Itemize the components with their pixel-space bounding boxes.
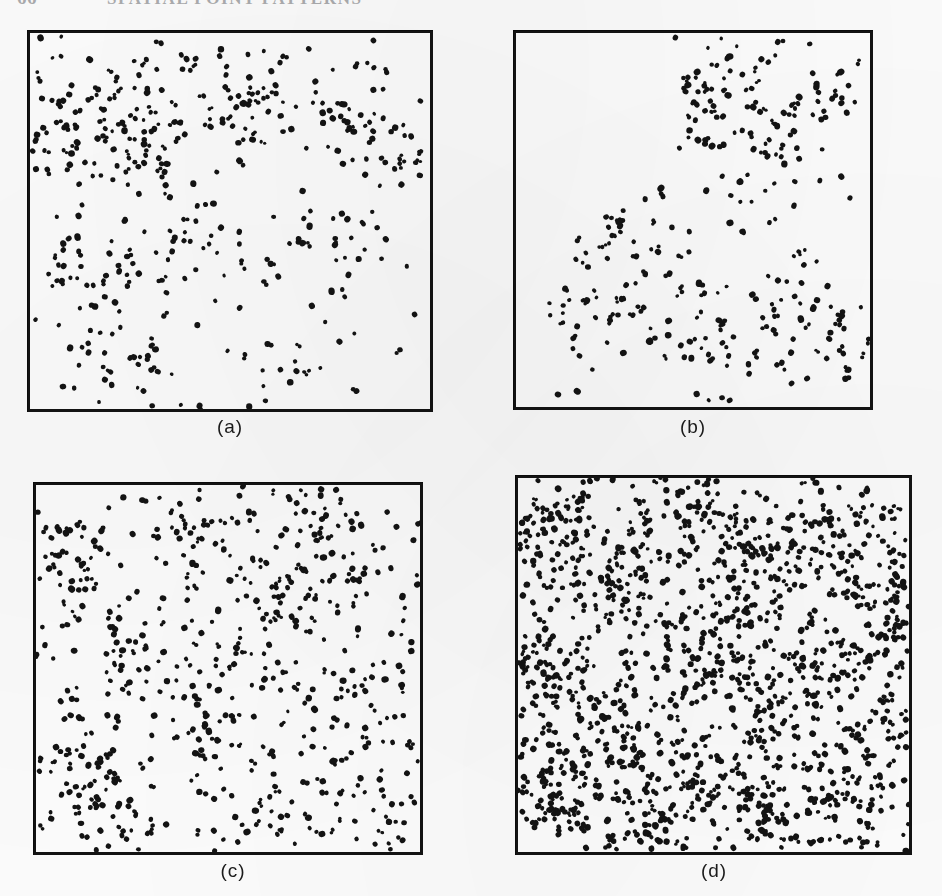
point-canvas-d [518, 478, 909, 852]
panel-label-d: (d) [674, 860, 754, 882]
page-running-head: 66SPATIAL POINT PATTERNS [0, 0, 942, 11]
scatter-panel-d [515, 475, 912, 855]
running-title: SPATIAL POINT PATTERNS [37, 0, 363, 9]
scatter-panel-a [27, 30, 433, 412]
point-canvas-b [516, 33, 870, 407]
scatter-panel-b [513, 30, 873, 410]
scanned-page: 66SPATIAL POINT PATTERNS (a)(b)(c)(d) [0, 0, 942, 896]
point-pattern-b [516, 33, 870, 407]
scatter-panel-c [33, 482, 423, 855]
panel-label-b: (b) [653, 416, 733, 438]
point-pattern-d [518, 478, 909, 852]
point-canvas-c [36, 485, 420, 852]
panel-label-c: (c) [193, 860, 273, 882]
point-pattern-a [30, 33, 430, 409]
panel-label-a: (a) [190, 416, 270, 438]
page-folio-number: 66 [0, 0, 37, 9]
point-pattern-c [36, 485, 420, 852]
point-canvas-a [30, 33, 430, 409]
